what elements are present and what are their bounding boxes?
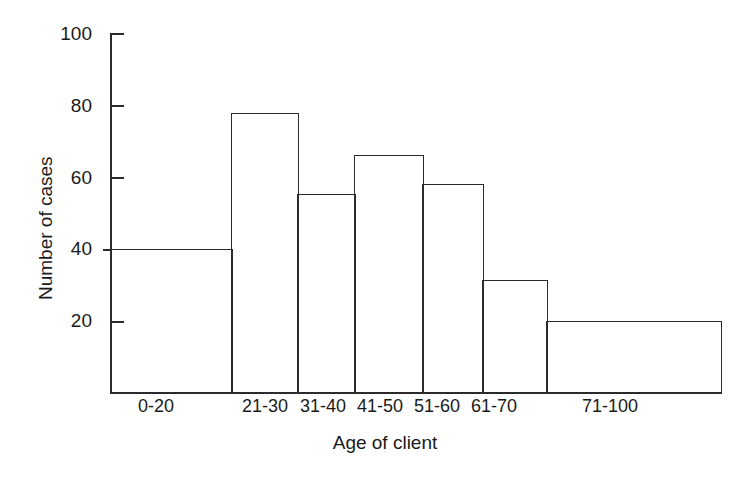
x-tick-label-0-20: 0-20 bbox=[126, 397, 186, 415]
bar-31-40 bbox=[297, 194, 356, 393]
x-tick-label-61-70: 61-70 bbox=[464, 397, 524, 415]
y-tick-label-60: 60 bbox=[22, 168, 92, 187]
x-tick-label-71-100: 71-100 bbox=[570, 397, 650, 415]
x-axis-title: Age of client bbox=[310, 433, 460, 452]
y-tick-label-80: 80 bbox=[22, 96, 92, 115]
bar-21-30 bbox=[231, 113, 299, 393]
y-tick-label-40: 40 bbox=[22, 239, 92, 258]
y-tick-mark-80 bbox=[110, 105, 124, 107]
y-tick-label-100: 100 bbox=[22, 24, 92, 43]
x-tick-label-31-40: 31-40 bbox=[293, 397, 353, 415]
y-axis-title: Number of cases bbox=[36, 156, 55, 300]
bar-41-50 bbox=[354, 155, 424, 393]
bar-71-100 bbox=[546, 321, 722, 393]
y-tick-mark-100 bbox=[110, 33, 124, 35]
histogram-chart: 100 80 60 40 20 0-20 21-30 31-40 41-50 5… bbox=[0, 0, 751, 487]
bar-51-60 bbox=[422, 184, 484, 393]
x-tick-label-41-50: 41-50 bbox=[350, 397, 410, 415]
bar-0-20 bbox=[110, 249, 233, 393]
x-tick-label-21-30: 21-30 bbox=[235, 397, 295, 415]
y-tick-mark-60 bbox=[110, 177, 124, 179]
x-tick-label-51-60: 51-60 bbox=[407, 397, 467, 415]
bar-61-70 bbox=[482, 280, 548, 393]
y-tick-label-20: 20 bbox=[22, 311, 92, 330]
